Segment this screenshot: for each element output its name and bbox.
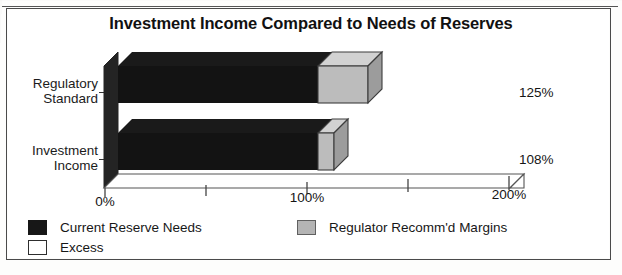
chart-left-wall xyxy=(104,52,118,188)
legend-item-current-reserve-needs: Current Reserve Needs xyxy=(28,220,202,235)
legend-item-regulator-recommd-margins: Regulator Recomm'd Margins xyxy=(297,220,507,235)
bar-1-margin-segment xyxy=(318,66,368,103)
value-label-investment-income: 108% xyxy=(519,152,554,167)
bar-1-black-top-face xyxy=(118,52,332,66)
legend-swatch-gray-icon xyxy=(297,220,316,235)
bar-1-reserve-needs-segment xyxy=(118,66,318,103)
axis-tick-label-200: 200% xyxy=(474,187,544,202)
bar-2-reserve-needs-segment xyxy=(118,133,318,170)
chart-title: Investment Income Compared to Needs of R… xyxy=(0,14,622,33)
legend-swatch-white-icon xyxy=(28,240,47,255)
value-label-regulatory-standard: 125% xyxy=(519,85,554,100)
bar-investment-income xyxy=(118,119,348,170)
bar-regulatory-standard xyxy=(118,52,382,103)
legend-swatch-black-icon xyxy=(28,220,47,235)
legend-item-excess: Excess xyxy=(28,240,104,255)
legend-label: Excess xyxy=(60,240,104,255)
page-rule-top xyxy=(2,6,618,7)
legend-label: Current Reserve Needs xyxy=(60,220,202,235)
legend-label: Regulator Recomm'd Margins xyxy=(329,220,507,235)
chart-legend: Current Reserve Needs Excess Regulator R… xyxy=(0,218,622,262)
axis-tick-label-100: 100% xyxy=(272,190,342,205)
bar-2-black-top-face xyxy=(118,119,332,133)
axis-floor-surface xyxy=(104,174,524,188)
bar-2-margin-segment xyxy=(318,133,334,170)
chart-container: Investment Income Compared to Needs of R… xyxy=(0,0,622,275)
axis-tick-label-0: 0% xyxy=(70,194,140,209)
bars-svg xyxy=(104,52,534,202)
plot-area xyxy=(104,52,524,192)
category-label-text: Investment Income xyxy=(32,143,98,173)
category-label-text: Regulatory Standard xyxy=(33,76,98,106)
